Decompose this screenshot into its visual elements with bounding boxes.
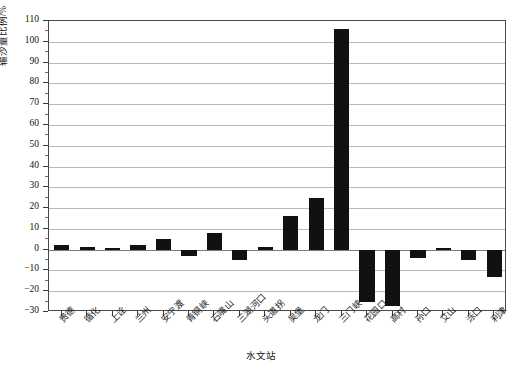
gridline	[49, 229, 505, 230]
y-tick-label: 100	[0, 36, 39, 46]
y-tick-label: 70	[0, 98, 39, 108]
gridline	[49, 83, 505, 84]
y-tick-mark	[43, 311, 48, 312]
y-tick-label: 90	[0, 57, 39, 67]
gridline	[49, 146, 505, 147]
plot-area	[48, 20, 506, 311]
y-tick-label: 60	[0, 119, 39, 129]
y-tick-label: −20	[0, 285, 39, 295]
bar	[359, 250, 374, 302]
bar	[232, 250, 247, 260]
bar	[207, 233, 222, 250]
y-tick-label: −30	[0, 306, 39, 316]
bar	[461, 250, 476, 260]
gridline	[49, 104, 505, 105]
gridline	[49, 270, 505, 271]
bar	[309, 198, 324, 250]
bar	[487, 250, 502, 277]
gridline	[49, 187, 505, 188]
bar	[105, 248, 120, 250]
zero-line	[49, 250, 505, 251]
x-axis-title: 水文站	[0, 348, 522, 362]
gridline	[49, 42, 505, 43]
gridline	[49, 291, 505, 292]
bar	[156, 239, 171, 249]
bar	[54, 245, 69, 249]
bar	[181, 250, 196, 256]
bar	[130, 245, 145, 249]
y-tick-label: 40	[0, 161, 39, 171]
y-tick-label: 30	[0, 181, 39, 191]
bar	[334, 29, 349, 249]
bar	[385, 250, 400, 306]
y-tick-label: 80	[0, 77, 39, 87]
y-tick-label: 10	[0, 223, 39, 233]
gridline	[49, 167, 505, 168]
gridline	[49, 125, 505, 126]
bar	[283, 216, 298, 249]
y-tick-label: −10	[0, 264, 39, 274]
y-tick-label: 110	[0, 15, 39, 25]
gridline	[49, 63, 505, 64]
y-tick-label: 0	[0, 244, 39, 254]
gridline	[49, 208, 505, 209]
bar	[80, 247, 95, 250]
y-tick-label: 50	[0, 140, 39, 150]
chart-figure: 输沙量比例/% −30−20−1001020304050607080901001…	[0, 0, 522, 374]
bar	[436, 248, 451, 250]
bar	[258, 247, 273, 250]
bar	[410, 250, 425, 258]
y-tick-label: 20	[0, 202, 39, 212]
